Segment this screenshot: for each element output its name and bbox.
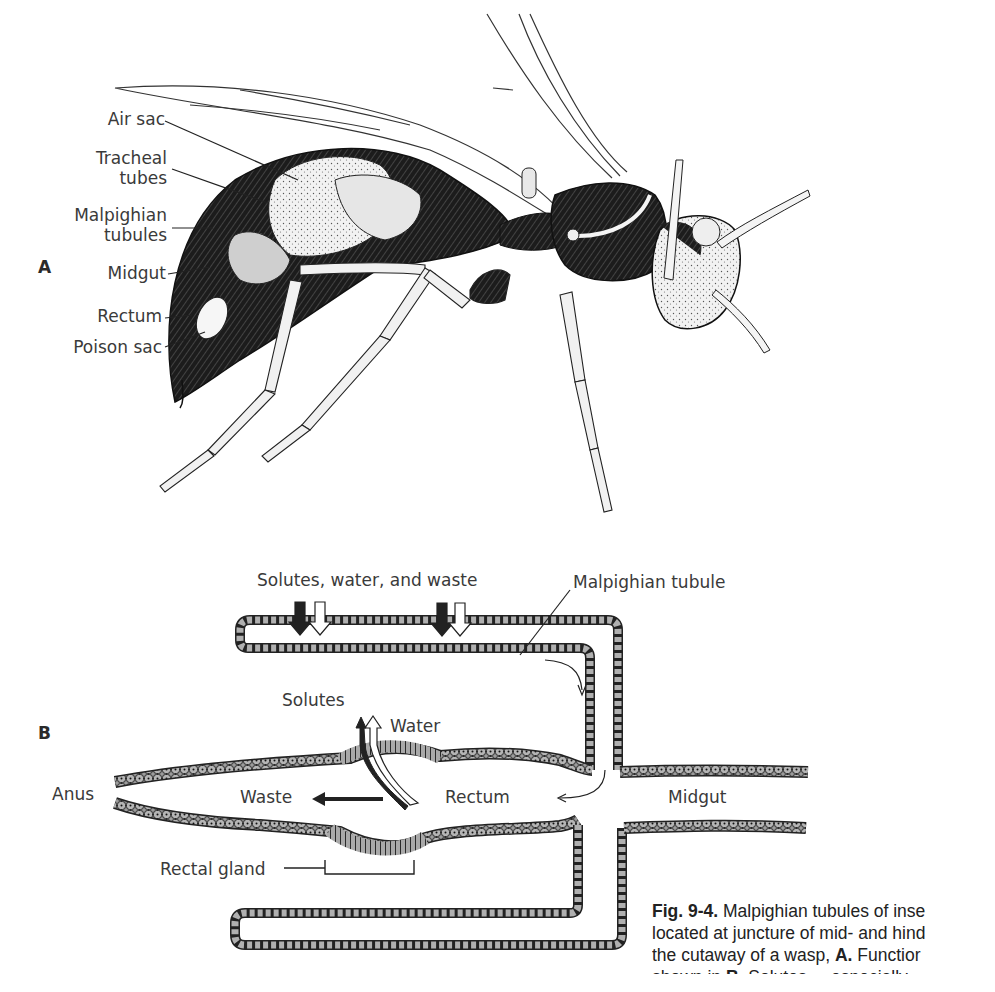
label-air-sac: Air sac (73, 109, 165, 129)
hindwing-raised (487, 14, 627, 178)
label-malpighian-tubules: Malpighian tubules (52, 205, 167, 245)
waste-arrow (312, 792, 383, 806)
panel-a-letter: A (38, 257, 51, 277)
label-midgut: Midgut (52, 263, 166, 283)
figure-caption: Fig. 9-4. Malpighian tubules of inse loc… (652, 900, 995, 974)
caption-line-2: located at juncture of mid- and hind (652, 922, 995, 944)
tubule-diagram (115, 590, 808, 945)
label-midgut-b: Midgut (668, 787, 726, 807)
wasp-abdomen (169, 149, 515, 408)
label-water: Water (390, 716, 440, 736)
rectal-gland-bracket (284, 860, 414, 874)
caption-line-3: the cutaway of a wasp, A. Functior (652, 944, 995, 966)
label-solutes-water-waste: Solutes, water, and waste (257, 570, 477, 590)
label-rectum-b: Rectum (445, 787, 510, 807)
label-poison-sac: Poison sac (40, 337, 162, 357)
label-waste: Waste (240, 787, 292, 807)
label-tracheal-tubes: Tracheal tubes (52, 148, 167, 188)
tubule-flow-arrow (545, 660, 582, 690)
label-rectal-gland: Rectal gland (160, 859, 266, 879)
label-solutes: Solutes (282, 690, 345, 710)
panel-b-letter: B (38, 723, 51, 743)
label-anus: Anus (52, 784, 94, 804)
caption-line-4: shown in B. Solutes ... especially (652, 966, 995, 974)
figure-number: Fig. 9-4. (652, 901, 718, 921)
label-malpighian-tubule: Malpighian tubule (573, 572, 725, 592)
caption-line-1: Fig. 9-4. Malpighian tubules of inse (652, 900, 995, 922)
wasp-thorax (500, 168, 666, 281)
label-rectum: Rectum (52, 306, 162, 326)
